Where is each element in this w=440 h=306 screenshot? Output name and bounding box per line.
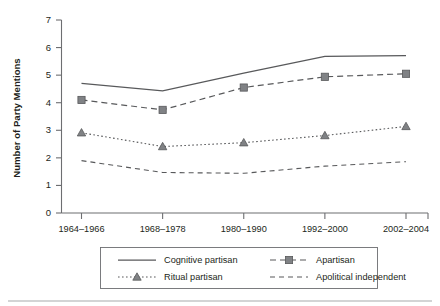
y-axis-label: Number of Party Mentions <box>11 58 22 177</box>
series-layer <box>77 56 410 174</box>
y-axis-ticks: 01234567 <box>46 14 62 218</box>
data-point-marker <box>240 84 247 91</box>
x-tick-label: 2002–2004 <box>383 224 429 234</box>
chart-figure: Number of Party Mentions 01234567 1964–1… <box>0 0 440 306</box>
legend-label-2: Ritual partisan <box>164 272 223 282</box>
legend-label-1: Apartisan <box>316 255 355 265</box>
y-tick-label: 7 <box>46 14 51 25</box>
data-point-marker <box>78 96 85 103</box>
x-axis-ticks: 1964–19661968–19781980–19901992–20002002… <box>59 213 430 234</box>
axes <box>62 20 429 213</box>
y-tick-label: 2 <box>46 152 51 163</box>
data-point-marker <box>321 131 329 138</box>
y-tick-label: 4 <box>46 97 51 108</box>
data-point-marker <box>402 122 410 129</box>
legend-marker-square <box>285 256 292 263</box>
data-point-marker <box>240 138 248 145</box>
x-tick-label: 1964–1966 <box>59 224 105 234</box>
series-line-3 <box>82 161 407 174</box>
data-point-marker <box>77 129 85 136</box>
legend-label-0: Cognitive partisan <box>164 255 238 265</box>
x-tick-label: 1992–2000 <box>302 224 348 234</box>
y-tick-label: 1 <box>46 179 51 190</box>
y-tick-label: 5 <box>46 69 51 80</box>
series-line-1 <box>82 74 407 110</box>
y-tick-label: 3 <box>46 124 51 135</box>
x-tick-label: 1968–1978 <box>140 224 186 234</box>
y-tick-label: 6 <box>46 42 51 53</box>
data-point-marker <box>402 70 409 77</box>
y-tick-label: 0 <box>46 207 51 218</box>
x-tick-label: 1980–1990 <box>221 224 267 234</box>
legend-label-3: Apolitical independent <box>316 272 406 282</box>
line-chart: Number of Party Mentions 01234567 1964–1… <box>0 0 440 306</box>
data-point-marker <box>159 106 166 113</box>
chart-legend: Cognitive partisanApartisanRitual partis… <box>101 248 407 289</box>
data-point-marker <box>321 73 328 80</box>
